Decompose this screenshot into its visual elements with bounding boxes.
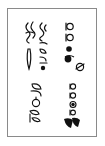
handwritten-glyph-icon <box>60 19 88 75</box>
handwritten-glyph-icon <box>22 19 54 75</box>
glyph-cluster-top-right <box>60 19 88 75</box>
glyph-cluster-top-left <box>22 19 54 75</box>
glyph-cluster-bottom-right <box>60 81 88 131</box>
handwritten-glyph-icon <box>24 81 54 127</box>
page-frame <box>7 8 97 137</box>
glyph-cluster-bottom-left <box>24 81 54 127</box>
handwritten-glyph-icon <box>60 81 88 131</box>
